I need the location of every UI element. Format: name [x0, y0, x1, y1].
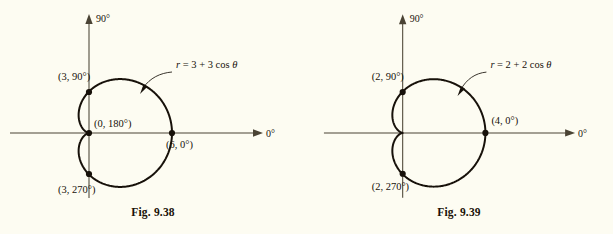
- equation-theta: θ: [232, 59, 237, 70]
- polar-plot-9-39: 90° 0° (2, 90°) (4, 0°) (2, 270°) r = 2 …: [306, 0, 612, 206]
- equation-rhs: = 3 + 3 cos: [180, 59, 232, 70]
- label-point-0-180: (0, 180°): [94, 118, 132, 130]
- axis-label-90: 90°: [96, 13, 110, 24]
- figure-caption-9-38: Fig. 9.38: [0, 206, 306, 218]
- dot-3-270: [86, 171, 92, 177]
- dot-0-180: [86, 130, 92, 136]
- equation-theta: θ: [546, 59, 551, 70]
- label-point-6-0: (6, 0°): [166, 139, 193, 151]
- label-point-2-90: (2, 90°): [372, 71, 405, 83]
- equation-label: r = 2 + 2 cos θ: [490, 59, 551, 70]
- dot-6-0: [169, 130, 175, 136]
- dot-4-0: [482, 130, 488, 136]
- equation-label: r = 3 + 3 cos θ: [176, 59, 237, 70]
- figure-9-38: 90° 0° (3, 90°) (0, 180°) (6, 0°) (3, 27…: [0, 0, 306, 234]
- label-point-4-0: (4, 0°): [491, 115, 518, 127]
- dot-3-90: [86, 89, 92, 95]
- label-point-2-270: (2, 270°): [372, 181, 410, 193]
- label-point-3-90: (3, 90°): [58, 71, 91, 83]
- figure-9-39: 90° 0° (2, 90°) (4, 0°) (2, 270°) r = 2 …: [306, 0, 612, 234]
- horizontal-axis: [324, 129, 575, 136]
- axis-label-90: 90°: [410, 13, 424, 24]
- axis-label-0: 0°: [578, 128, 587, 139]
- label-point-3-270: (3, 270°): [58, 184, 96, 196]
- axis-label-0: 0°: [266, 128, 275, 139]
- polar-plot-9-38: 90° 0° (3, 90°) (0, 180°) (6, 0°) (3, 27…: [0, 0, 306, 206]
- dot-2-90: [400, 89, 406, 95]
- figure-caption-9-39: Fig. 9.39: [306, 206, 612, 218]
- figure-page: 90° 0° (3, 90°) (0, 180°) (6, 0°) (3, 27…: [0, 0, 613, 234]
- equation-rhs: = 2 + 2 cos: [494, 59, 546, 70]
- equation-leader: [458, 72, 487, 96]
- horizontal-axis: [10, 129, 263, 136]
- equation-leader: [140, 72, 172, 94]
- dot-2-270: [400, 171, 406, 177]
